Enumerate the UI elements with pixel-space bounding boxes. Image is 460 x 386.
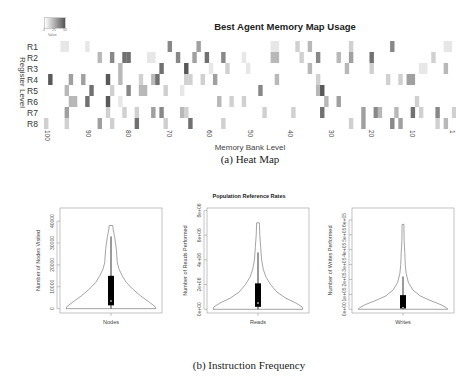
x-tick-label: 20 bbox=[368, 130, 375, 137]
x-tick-label: 10 bbox=[409, 130, 416, 137]
row-label: R8 bbox=[27, 119, 43, 129]
row-label: R3 bbox=[27, 64, 43, 74]
svg-text:6e+06: 6e+06 bbox=[196, 228, 202, 242]
svg-text:Number of Nodes Visited: Number of Nodes Visited bbox=[35, 230, 41, 291]
heatmap-y-axis-label: Register Level bbox=[18, 53, 27, 113]
svg-text:3e+05: 3e+05 bbox=[341, 257, 347, 271]
svg-text:0e+00: 0e+00 bbox=[341, 302, 347, 316]
heatmap-x-axis-label: Memory Bank Level bbox=[0, 143, 460, 152]
x-tick-label: 80 bbox=[125, 130, 132, 137]
row-label: R4 bbox=[27, 75, 43, 85]
heatmap-title: Best Agent Memory Map Usage bbox=[0, 21, 460, 32]
row-label: R6 bbox=[27, 97, 43, 107]
heatmap-grid bbox=[44, 41, 456, 129]
row-label: R7 bbox=[27, 108, 43, 118]
svg-text:4e+05: 4e+05 bbox=[341, 242, 347, 256]
svg-text:4e+06: 4e+06 bbox=[196, 253, 202, 267]
row-label: R2 bbox=[27, 53, 43, 63]
violin-panel-nodes: 010000200003000040000Number of Nodes Vis… bbox=[35, 208, 162, 325]
svg-text:20000: 20000 bbox=[49, 258, 55, 272]
x-tick-label: 90 bbox=[85, 130, 92, 137]
svg-text:Writes: Writes bbox=[395, 319, 411, 325]
caption-instruction-frequency: (b) Instruction Frequency bbox=[0, 359, 460, 371]
row-label: R1 bbox=[27, 42, 43, 52]
heatmap-legend-label: Value bbox=[48, 33, 57, 37]
x-tick-label: 50 bbox=[247, 130, 254, 137]
x-tick-label: 70 bbox=[166, 130, 173, 137]
svg-text:1e+05: 1e+05 bbox=[341, 287, 347, 301]
violin-plots: 010000200003000040000Number of Nodes Vis… bbox=[0, 195, 460, 355]
svg-text:0: 0 bbox=[49, 307, 55, 310]
x-tick-label: 30 bbox=[328, 130, 335, 137]
svg-text:8e+06: 8e+06 bbox=[196, 203, 202, 217]
svg-text:5e+05: 5e+05 bbox=[341, 228, 347, 242]
svg-text:0e+00: 0e+00 bbox=[196, 302, 202, 316]
x-tick-label: 100 bbox=[44, 130, 51, 141]
svg-text:Number of Reads Performed: Number of Reads Performed bbox=[182, 225, 188, 295]
svg-text:2e+06: 2e+06 bbox=[196, 277, 202, 291]
violin-panel-reads: 0e+002e+064e+066e+068e+06Number of Reads… bbox=[182, 203, 309, 325]
svg-text:Nodes: Nodes bbox=[103, 319, 119, 325]
svg-text:10000: 10000 bbox=[49, 280, 55, 294]
caption-heat-map: (a) Heat Map bbox=[0, 153, 460, 165]
svg-text:2e+05: 2e+05 bbox=[341, 272, 347, 286]
svg-text:40000: 40000 bbox=[49, 214, 55, 228]
svg-text:Number of Writes Performed: Number of Writes Performed bbox=[327, 226, 333, 296]
x-tick-label: 60 bbox=[206, 130, 213, 137]
x-tick-label: 40 bbox=[287, 130, 294, 137]
svg-text:6e+05: 6e+05 bbox=[341, 213, 347, 227]
row-label: R5 bbox=[27, 86, 43, 96]
x-tick-label: 1 bbox=[449, 130, 456, 134]
svg-text:Reads: Reads bbox=[250, 319, 266, 325]
svg-text:30000: 30000 bbox=[49, 236, 55, 250]
violin-panel-writes: 0e+001e+052e+053e+054e+055e+056e+05Numbe… bbox=[327, 208, 454, 325]
